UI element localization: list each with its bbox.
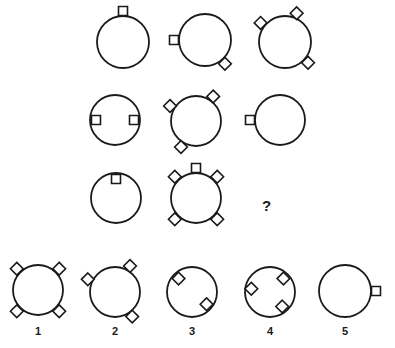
option-5-label[interactable]: 5 — [335, 325, 355, 337]
option-3[interactable] — [151, 251, 233, 333]
matrix-cell-r2c3 — [239, 79, 321, 161]
matrix-cell-r1c2 — [163, 0, 247, 82]
option-3-graphic — [151, 251, 233, 333]
matrix-cell-r3c1 — [75, 157, 157, 239]
circle-outline — [255, 95, 305, 145]
matrix-cell-r2c3-graphic — [239, 79, 321, 161]
option-1-graphic — [0, 249, 79, 331]
missing-cell-question-mark: ? — [262, 197, 271, 214]
matrix-cell-r2c1 — [74, 79, 156, 161]
option-2[interactable] — [74, 251, 156, 333]
square-marker — [92, 116, 101, 125]
square-marker — [170, 36, 179, 45]
diamond-marker — [302, 56, 315, 69]
diamond-marker — [175, 141, 188, 154]
matrix-cell-r1c3 — [243, 0, 327, 84]
option-5[interactable] — [303, 249, 387, 333]
option-2-graphic — [74, 251, 156, 333]
square-marker — [119, 7, 128, 16]
option-5-graphic — [303, 249, 387, 333]
diamond-marker — [126, 310, 139, 323]
matrix-cell-r2c2 — [155, 80, 237, 162]
option-4-graphic — [229, 251, 311, 333]
diamond-marker — [254, 17, 267, 30]
square-marker — [130, 116, 139, 125]
square-marker — [192, 164, 201, 173]
option-2-label[interactable]: 2 — [105, 325, 125, 337]
diamond-marker — [168, 170, 181, 183]
circle-outline — [319, 265, 371, 317]
matrix-cell-r3c2 — [155, 157, 237, 239]
matrix-cell-r3c1-graphic — [75, 157, 157, 239]
matrix-cell-r3c2-graphic — [155, 157, 237, 239]
matrix-cell-r1c3-graphic — [243, 0, 327, 84]
diamond-marker — [219, 57, 232, 70]
diamond-marker — [168, 213, 181, 226]
square-marker — [372, 287, 381, 296]
diamond-marker — [53, 305, 66, 318]
matrix-cell-r1c2-graphic — [163, 0, 247, 82]
matrix-cell-r1c1-graphic — [81, 0, 165, 84]
option-4-label[interactable]: 4 — [260, 325, 280, 337]
square-marker — [112, 175, 121, 184]
option-3-label[interactable]: 3 — [182, 325, 202, 337]
diamond-marker — [124, 260, 137, 273]
option-1-label[interactable]: 1 — [28, 325, 48, 337]
diamond-marker — [211, 213, 224, 226]
diamond-marker — [164, 100, 177, 113]
diamond-marker — [207, 90, 220, 103]
matrix-cell-r2c2-graphic — [155, 80, 237, 162]
square-marker — [246, 116, 255, 125]
diamond-marker — [211, 170, 224, 183]
circle-outline — [97, 16, 149, 68]
option-1[interactable] — [0, 249, 79, 331]
matrix-cell-r2c1-graphic — [74, 79, 156, 161]
circle-outline — [167, 267, 217, 317]
diamond-marker — [10, 262, 23, 275]
puzzle-canvas: ?12345 — [0, 0, 395, 348]
diamond-marker — [10, 305, 23, 318]
diamond-marker — [53, 262, 66, 275]
option-4[interactable] — [229, 251, 311, 333]
matrix-cell-r1c1 — [81, 0, 165, 84]
